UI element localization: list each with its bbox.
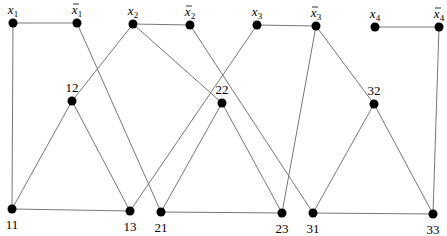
- label-11: 11: [6, 217, 19, 232]
- label-33: 33: [427, 222, 440, 236]
- label-x1: x1: [7, 2, 18, 19]
- edge-nx3-23: [282, 26, 316, 213]
- node-nx3: [312, 22, 321, 31]
- edge-32-33: [374, 104, 433, 214]
- label-22: 22: [216, 82, 229, 97]
- node-x4: [371, 23, 380, 32]
- label-32: 32: [368, 83, 381, 98]
- edge-x2-22: [133, 24, 222, 103]
- edge-x2-nx2: [133, 24, 190, 25]
- node-x2: [129, 20, 138, 29]
- label-21: 21: [155, 220, 168, 235]
- edge-nx3-32: [316, 26, 374, 104]
- label-nx1: x1: [71, 2, 82, 19]
- node-13: [126, 207, 135, 216]
- label-x2: x2: [127, 3, 138, 20]
- label-13: 13: [124, 219, 137, 234]
- label-nx2: x2: [184, 4, 195, 21]
- label-nx3: x3: [310, 5, 322, 22]
- node-12: [68, 97, 77, 106]
- edge-nx4-33: [433, 27, 439, 214]
- edge-x3-nx3: [257, 25, 316, 26]
- edge-x1-11: [12, 23, 13, 209]
- label-12: 12: [66, 80, 79, 95]
- node-31: [309, 209, 318, 218]
- edge-x2-12: [72, 24, 133, 101]
- labels: x1x1x2x2x3x3x4x4122232111321233133: [6, 2, 445, 236]
- edge-x3-13: [130, 25, 257, 211]
- label-31: 31: [307, 221, 320, 236]
- node-11: [8, 205, 17, 214]
- node-nx4: [435, 23, 444, 32]
- edge-11-13: [12, 209, 130, 211]
- edge-31-33: [313, 213, 433, 214]
- edge-32-31: [313, 104, 374, 213]
- edge-22-21: [161, 103, 222, 212]
- node-x3: [253, 21, 262, 30]
- node-21: [157, 208, 166, 217]
- node-23: [278, 209, 287, 218]
- node-x1: [9, 19, 18, 28]
- label-x4: x4: [369, 6, 381, 23]
- edges: [12, 23, 439, 214]
- graph-diagram: x1x1x2x2x3x3x4x4122232111321233133: [0, 0, 447, 236]
- edge-12-13: [72, 101, 130, 211]
- label-x3: x3: [251, 4, 263, 21]
- edge-12-11: [12, 101, 72, 209]
- label-nx4: x4: [433, 6, 445, 23]
- node-33: [429, 210, 438, 219]
- label-23: 23: [276, 221, 289, 236]
- edge-nx2-31: [190, 25, 313, 213]
- edge-21-23: [161, 212, 282, 213]
- node-22: [218, 99, 227, 108]
- node-nx1: [73, 19, 82, 28]
- node-nx2: [186, 21, 195, 30]
- nodes: [8, 19, 444, 219]
- node-32: [370, 100, 379, 109]
